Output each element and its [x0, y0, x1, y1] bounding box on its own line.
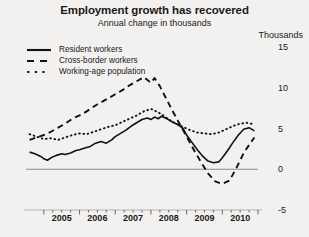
x-tick-label: 2005 — [52, 213, 72, 223]
y-tick-label: 10 — [278, 83, 288, 93]
y-tick-label: -5 — [278, 205, 286, 215]
y-tick-label: 0 — [278, 164, 283, 174]
chart-container: Employment growth has recovered Annual c… — [0, 0, 309, 237]
x-tick-label: 2006 — [87, 213, 107, 223]
y-tick-label: 5 — [278, 124, 283, 134]
x-tick-label: 2007 — [123, 213, 143, 223]
x-tick-label: 2008 — [159, 213, 179, 223]
axis-tick-layer: 151050-5200520062007200820092010 — [0, 0, 309, 237]
y-tick-label: 15 — [278, 42, 288, 52]
x-tick-label: 2010 — [230, 213, 250, 223]
x-tick-label: 2009 — [194, 213, 214, 223]
